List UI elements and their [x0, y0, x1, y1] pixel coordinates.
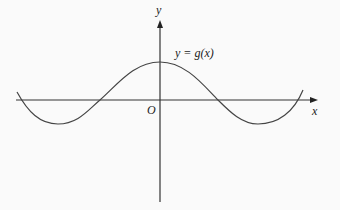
x-axis-arrow-icon [310, 97, 318, 103]
origin-label: O [147, 104, 156, 116]
function-label: y = g(x) [175, 47, 214, 59]
x-axis-label: x [312, 105, 317, 117]
graph-figure: y y = g(x) O x [0, 0, 340, 210]
y-axis-label: y [156, 4, 161, 16]
graph-canvas [0, 0, 340, 210]
y-axis-arrow-icon [157, 20, 163, 28]
